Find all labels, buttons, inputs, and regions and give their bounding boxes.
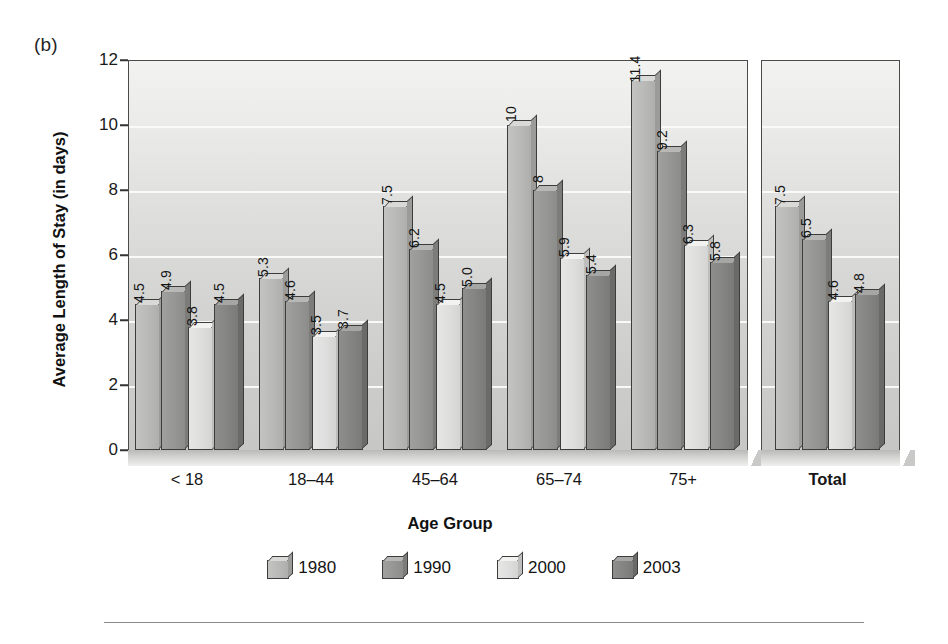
bar-1990-18-44: 4.6	[285, 301, 310, 451]
y-axis-tick-mark	[120, 384, 128, 386]
bar-value-label: 5.9	[556, 237, 572, 257]
bar-side-face	[734, 251, 740, 449]
bar-1980--18: 4.5	[135, 304, 160, 450]
x-axis-category-label: 18–44	[288, 470, 334, 489]
y-axis-tick-label: 6	[78, 245, 118, 265]
y-axis-tick-mark	[120, 319, 128, 321]
bar-1990-75-: 9.2	[657, 151, 682, 450]
y-axis-tick-label: 4	[78, 310, 118, 330]
legend-swatch-icon	[612, 560, 634, 579]
bar-side-face	[238, 293, 244, 449]
bar-2003-18-44: 3.7	[338, 330, 363, 450]
bar-2000-45-64: 4.5	[436, 304, 461, 450]
bar-value-label: 4.9	[158, 270, 174, 290]
chart-legend: 1980199020002003	[0, 556, 948, 579]
y-axis-tick-mark	[120, 254, 128, 256]
bar-1980-45-64: 7.5	[383, 206, 408, 450]
x-axis-category-label: < 18	[171, 470, 204, 489]
y-axis-tick-label: 2	[78, 375, 118, 395]
bar-value-label: 10	[503, 106, 519, 122]
bar-1980-total: 7.5	[775, 206, 800, 450]
bar-side-face	[486, 277, 492, 449]
legend-label: 2000	[528, 558, 566, 578]
bar-2003-75-: 5.8	[710, 262, 735, 451]
bar-value-label: 7.5	[772, 185, 788, 205]
legend-swatch-icon	[497, 560, 519, 579]
x-axis-category-label: 75+	[669, 470, 697, 489]
bar-1990-total: 6.5	[802, 239, 827, 450]
bar-2000--18: 3.8	[188, 327, 213, 451]
legend-swatch-side-face	[403, 551, 408, 578]
y-axis-tick-mark	[120, 189, 128, 191]
bar-side-face	[362, 319, 368, 449]
bar-2003--18: 4.5	[214, 304, 239, 450]
y-axis-tick-mark	[120, 124, 128, 126]
y-axis-tick-mark	[120, 59, 128, 61]
legend-label: 1990	[413, 558, 451, 578]
bar-value-label: 6.3	[680, 224, 696, 244]
bar-2000-65-74: 5.9	[560, 258, 585, 450]
bottom-divider-rule	[104, 622, 864, 623]
bar-2003-65-74: 5.4	[586, 275, 611, 451]
bar-2003-total: 4.8	[855, 294, 880, 450]
legend-label: 2003	[643, 558, 681, 578]
y-axis-tick-mark	[120, 449, 128, 451]
bar-1990--18: 4.9	[161, 291, 186, 450]
bar-1990-45-64: 6.2	[409, 249, 434, 451]
bar-value-label: 5.8	[707, 240, 723, 260]
bar-2000-75-: 6.3	[684, 245, 709, 450]
baseline-shelf-tip-total	[900, 450, 915, 466]
x-axis-category-label: 65–74	[536, 470, 582, 489]
bar-value-label: 6.2	[406, 227, 422, 247]
y-axis-tick-label: 0	[78, 440, 118, 460]
y-axis-tick-label: 12	[78, 50, 118, 70]
legend-item-1980[interactable]: 1980	[267, 556, 336, 579]
bar-side-face	[879, 284, 885, 449]
bar-value-label: 3.7	[335, 309, 351, 329]
bar-value-label: 4.5	[211, 283, 227, 303]
y-axis-tick-group: 024681012	[72, 60, 128, 450]
x-axis-category-label: Total	[808, 470, 846, 489]
bar-value-label: 4.5	[432, 283, 448, 303]
x-axis-title: Age Group	[0, 514, 900, 533]
x-axis-category-label: 45–64	[412, 470, 458, 489]
bar-value-label: 3.5	[308, 315, 324, 335]
bar-value-label: 8	[530, 175, 546, 183]
legend-item-2003[interactable]: 2003	[612, 556, 681, 579]
baseline-shelf-main	[128, 450, 748, 466]
bar-value-label: 5.4	[583, 253, 599, 273]
y-axis-tick-label: 10	[78, 115, 118, 135]
bar-1990-65-74: 8	[533, 190, 558, 450]
bar-1980-65-74: 10	[507, 125, 532, 450]
bar-1980-18-44: 5.3	[259, 278, 284, 450]
y-axis-title: Average Length of Stay (in days)	[50, 50, 69, 470]
bar-value-label: 4.8	[851, 273, 867, 293]
gridline	[762, 126, 899, 128]
bar-side-face	[610, 264, 616, 449]
bar-value-label: 4.5	[131, 283, 147, 303]
bar-value-label: 5.0	[459, 266, 475, 286]
bar-value-label: 3.8	[184, 305, 200, 325]
bar-value-label: 6.5	[798, 218, 814, 238]
bar-value-label: 9.2	[654, 130, 670, 150]
legend-swatch-icon	[267, 560, 289, 579]
legend-item-1990[interactable]: 1990	[382, 556, 451, 579]
legend-label: 1980	[298, 558, 336, 578]
legend-item-2000[interactable]: 2000	[497, 556, 566, 579]
bar-value-label: 7.5	[379, 185, 395, 205]
legend-swatch-side-face	[288, 551, 293, 578]
bar-2003-45-64: 5.0	[462, 288, 487, 451]
y-axis-tick-label: 8	[78, 180, 118, 200]
legend-swatch-side-face	[518, 551, 523, 578]
bar-value-label: 4.6	[825, 279, 841, 299]
bar-2000-18-44: 3.5	[312, 336, 337, 450]
bar-value-label: 5.3	[255, 257, 271, 277]
legend-swatch-side-face	[633, 551, 638, 578]
baseline-shelf-total	[761, 450, 900, 466]
bar-1980-75-: 11.4	[631, 80, 656, 451]
bar-value-label: 11.4	[627, 55, 643, 82]
bar-2000-total: 4.6	[828, 301, 853, 451]
legend-swatch-icon	[382, 560, 404, 579]
bar-value-label: 4.6	[282, 279, 298, 299]
